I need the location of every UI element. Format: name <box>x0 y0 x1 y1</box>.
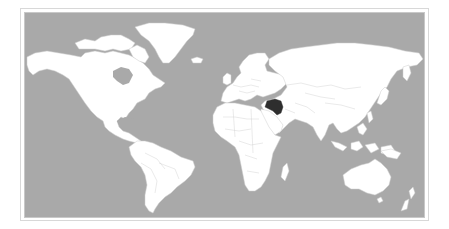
world-map-svg <box>25 13 424 217</box>
world-map: Iraq <box>24 12 425 218</box>
